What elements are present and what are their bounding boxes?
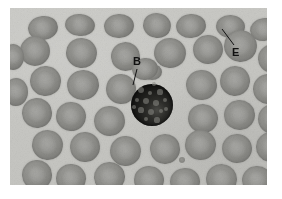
basophil-granule	[152, 82, 156, 86]
micrograph-figure: BE	[0, 0, 282, 199]
basophil-granule	[159, 109, 164, 114]
basophil-granule	[148, 109, 155, 116]
basophil-granule	[144, 117, 148, 121]
basophil-granule	[143, 98, 149, 104]
basophil-granule	[154, 117, 159, 122]
basophil-granule	[135, 98, 140, 103]
basophil-granule	[164, 107, 168, 111]
basophil-granule	[148, 91, 152, 95]
basophil-granule	[138, 87, 144, 93]
basophil-granule	[132, 105, 136, 109]
basophil-granule	[163, 98, 167, 102]
basophil-granule	[157, 89, 162, 94]
basophil-granule	[153, 100, 159, 106]
erythrocyte	[20, 36, 50, 66]
basophil-cell	[131, 84, 173, 126]
basophil-granule	[138, 107, 143, 112]
blood-smear-image: BE	[10, 8, 267, 185]
